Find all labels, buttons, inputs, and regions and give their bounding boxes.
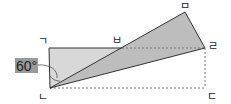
label-giyeok: ㄱ (38, 35, 48, 48)
label-mieum: ㅁ (180, 0, 190, 13)
label-bieup: ㅂ (112, 34, 122, 47)
label-nieun: ㄴ (38, 91, 48, 104)
label-rieul: ㄹ (208, 40, 218, 53)
label-digeut: ㄷ (207, 90, 217, 103)
angle-label: 60° (16, 58, 37, 74)
geometry-diagram: 60° ㄱ ㄴ ㄷ ㄹ ㅁ ㅂ (0, 0, 231, 104)
